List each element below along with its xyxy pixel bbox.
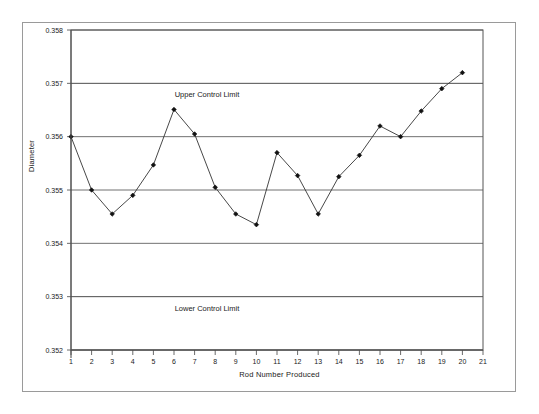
x-tick-label: 16 xyxy=(376,358,384,365)
x-tick-label: 11 xyxy=(273,358,280,365)
x-tick-labels-group: 123456789101112131415161718192021 xyxy=(69,358,487,365)
gridlines-group xyxy=(67,30,483,358)
x-tick-label: 1 xyxy=(69,358,73,365)
plot-area: 0.3520.3530.3540.3550.3560.3570.358 1234… xyxy=(0,0,539,414)
x-tick-label: 14 xyxy=(335,358,343,365)
y-tick-label: 0.356 xyxy=(45,133,63,140)
annotations-group: Upper Control LimitLower Control Limit xyxy=(175,90,241,312)
y-tick-label: 0.357 xyxy=(45,80,63,87)
y-tick-label: 0.352 xyxy=(45,347,63,354)
x-tick-label: 17 xyxy=(397,358,405,365)
lower-control-limit-label: Lower Control Limit xyxy=(175,304,241,313)
y-tick-label: 0.353 xyxy=(45,293,63,300)
x-tick-label: 12 xyxy=(294,358,302,365)
control-chart: 0.3520.3530.3540.3550.3560.3570.358 1234… xyxy=(0,0,539,414)
y-tick-label: 0.355 xyxy=(45,187,63,194)
x-tick-label: 4 xyxy=(131,358,135,365)
upper-control-limit-label: Upper Control Limit xyxy=(175,90,241,99)
x-tick-label: 21 xyxy=(479,358,487,365)
data-point-markers-group xyxy=(69,70,465,227)
x-tick-label: 18 xyxy=(417,358,425,365)
y-tick-label: 0.358 xyxy=(45,27,63,34)
x-tick-label: 6 xyxy=(172,358,176,365)
x-tick-label: 15 xyxy=(356,358,364,365)
data-series-line xyxy=(71,73,462,225)
x-tick-label: 3 xyxy=(110,358,114,365)
y-tick-labels-group: 0.3520.3530.3540.3550.3560.3570.358 xyxy=(45,27,63,354)
y-axis-title: Diameter xyxy=(27,126,36,186)
data-point-marker xyxy=(254,222,259,227)
x-tick-label: 8 xyxy=(213,358,217,365)
x-tick-label: 7 xyxy=(193,358,197,365)
x-tick-label: 9 xyxy=(234,358,238,365)
x-tick-label: 10 xyxy=(253,358,261,365)
x-tick-label: 13 xyxy=(314,358,322,365)
x-tick-label: 19 xyxy=(438,358,446,365)
x-tick-label: 5 xyxy=(151,358,155,365)
y-tick-label: 0.354 xyxy=(45,240,63,247)
x-tick-marks-group xyxy=(71,350,483,355)
data-point-marker xyxy=(316,212,321,217)
x-axis-title: Rod Number Produced xyxy=(0,370,539,379)
x-tick-label: 2 xyxy=(90,358,94,365)
x-tick-label: 20 xyxy=(459,358,467,365)
